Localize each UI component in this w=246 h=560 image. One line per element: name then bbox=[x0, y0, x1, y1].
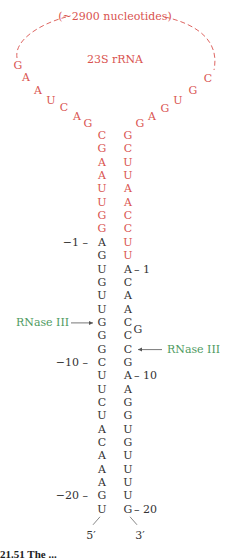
left-strand-nucleotide: C bbox=[98, 129, 106, 142]
position-label-right: – 20 bbox=[134, 503, 157, 516]
right-strand-nucleotide: C bbox=[124, 316, 132, 329]
left-strand-nucleotide: A bbox=[97, 156, 107, 169]
loop-nucleotide: C bbox=[204, 72, 212, 85]
arrowhead-icon bbox=[138, 348, 142, 352]
right-strand-nucleotide: U bbox=[123, 169, 132, 182]
left-strand-nucleotide: A bbox=[97, 169, 107, 182]
annotations: −1 –−10 –−20 –– 1– 10– 20RNase IIIRNase … bbox=[16, 236, 220, 542]
left-strand-nucleotide: G bbox=[98, 276, 107, 289]
loop-nucleotide: A bbox=[21, 71, 31, 84]
right-strand-nucleotide: U bbox=[123, 423, 132, 436]
left-strand-nucleotide: G bbox=[98, 222, 107, 235]
right-strand-nucleotide: U bbox=[123, 489, 132, 502]
right-strand-nucleotide: U bbox=[123, 236, 132, 249]
stem: CGAAUUGGAGUGUUGGGCUUCUACAAAGUGCUUAACCUUA… bbox=[97, 129, 142, 516]
left-strand-nucleotide: C bbox=[98, 436, 106, 449]
rrna-loop: (~2900 nucleotides)23S rRNAGAAUCAGGAGUGC bbox=[14, 10, 215, 130]
right-strand-nucleotide: C bbox=[124, 222, 132, 235]
loop-nucleotide: G bbox=[84, 117, 93, 130]
right-strand-nucleotide: A bbox=[123, 303, 133, 316]
left-strand-nucleotide: G bbox=[98, 249, 107, 262]
loop-nucleotide: G bbox=[189, 84, 198, 97]
left-strand-nucleotide: A bbox=[97, 423, 107, 436]
loop-nucleotide: G bbox=[161, 102, 170, 115]
right-strand-nucleotide: C bbox=[124, 276, 132, 289]
loop-nucleotide: A bbox=[72, 110, 82, 123]
left-strand-nucleotide: U bbox=[97, 383, 106, 396]
right-strand-nucleotide: U bbox=[123, 449, 132, 462]
loop-nucleotide: A bbox=[147, 110, 157, 123]
right-strand-nucleotide: G bbox=[124, 356, 133, 369]
right-strand-nucleotide: U bbox=[123, 249, 132, 262]
five-prime-label: 5′ bbox=[86, 529, 96, 542]
right-strand-nucleotide: C bbox=[124, 142, 132, 155]
right-strand-nucleotide: U bbox=[123, 156, 132, 169]
position-label-left: −20 – bbox=[56, 489, 89, 502]
left-strand-nucleotide: U bbox=[97, 263, 106, 276]
right-strand-nucleotide: U bbox=[123, 463, 132, 476]
left-strand-nucleotide: U bbox=[97, 303, 106, 316]
left-strand-nucleotide: A bbox=[97, 463, 107, 476]
left-strand-nucleotide: U bbox=[97, 289, 106, 302]
right-strand-nucleotide: C bbox=[124, 209, 132, 222]
three-prime-tail bbox=[130, 517, 137, 525]
right-strand-nucleotide: C bbox=[124, 343, 132, 356]
loop-nucleotide: C bbox=[60, 101, 68, 114]
right-strand-nucleotide: G bbox=[124, 503, 133, 516]
right-strand-nucleotide: G bbox=[124, 396, 133, 409]
left-strand-nucleotide: C bbox=[98, 356, 106, 369]
right-strand-nucleotide: G bbox=[124, 129, 133, 142]
three-prime-label: 3′ bbox=[135, 529, 145, 542]
rrna-title: 23S rRNA bbox=[87, 53, 144, 66]
right-strand-nucleotide: U bbox=[123, 476, 132, 489]
left-strand-nucleotide: G bbox=[98, 209, 107, 222]
left-strand-nucleotide: G bbox=[98, 329, 107, 342]
right-strand-nucleotide: A bbox=[123, 369, 133, 382]
position-label-right: – 1 bbox=[134, 263, 150, 276]
loop-nucleotide: U bbox=[46, 94, 55, 107]
right-strand-nucleotide: G bbox=[124, 436, 133, 449]
rnase-iii-label-right: RNase III bbox=[167, 343, 220, 356]
left-strand-nucleotide: U bbox=[97, 369, 106, 382]
right-strand-nucleotide: A bbox=[123, 289, 133, 302]
rnase-iii-label-left: RNase III bbox=[16, 316, 69, 329]
left-strand-nucleotide: G bbox=[98, 316, 107, 329]
right-strand-nucleotide: G bbox=[124, 409, 133, 422]
left-strand-nucleotide: A bbox=[97, 449, 107, 462]
bulge-nucleotide: G bbox=[134, 323, 143, 336]
right-strand-nucleotide: A bbox=[123, 383, 133, 396]
left-strand-nucleotide: G bbox=[98, 142, 107, 155]
left-strand-nucleotide: U bbox=[97, 409, 106, 422]
right-strand-nucleotide: A bbox=[123, 182, 133, 195]
loop-nucleotide: A bbox=[33, 84, 43, 97]
figure-caption: 21.51 The ... bbox=[0, 548, 57, 560]
left-strand-nucleotide: G bbox=[98, 489, 107, 502]
loop-nucleotide: G bbox=[136, 117, 145, 130]
right-strand-nucleotide: C bbox=[124, 329, 132, 342]
position-label-left: −10 – bbox=[56, 356, 89, 369]
loop-nucleotide: U bbox=[173, 94, 182, 107]
right-strand-nucleotide: A bbox=[123, 196, 133, 209]
left-strand-nucleotide: A bbox=[97, 236, 107, 249]
right-strand-nucleotide: A bbox=[123, 263, 133, 276]
arrowhead-icon bbox=[89, 321, 93, 325]
five-prime-tail bbox=[93, 517, 100, 525]
position-label-right: – 10 bbox=[134, 369, 157, 382]
position-label-left: −1 – bbox=[63, 236, 89, 249]
left-strand-nucleotide: C bbox=[98, 396, 106, 409]
left-strand-nucleotide: A bbox=[97, 476, 107, 489]
left-strand-nucleotide: U bbox=[97, 196, 106, 209]
left-strand-nucleotide: G bbox=[98, 343, 107, 356]
left-strand-nucleotide: U bbox=[97, 503, 106, 516]
loop-length-label: (~2900 nucleotides) bbox=[58, 10, 171, 23]
left-strand-nucleotide: U bbox=[97, 182, 106, 195]
